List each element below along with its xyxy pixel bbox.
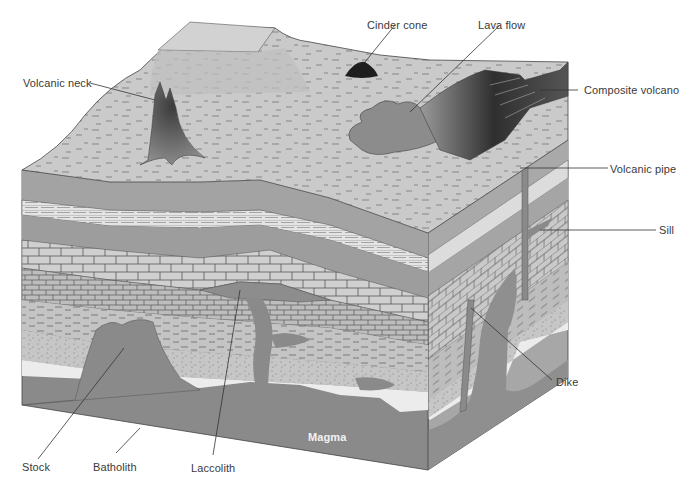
label-stock: Stock bbox=[22, 461, 50, 474]
label-sill: Sill bbox=[659, 224, 674, 237]
label-dike: Dike bbox=[556, 376, 578, 389]
label-laccolith: Laccolith bbox=[191, 462, 235, 475]
label-magma: Magma bbox=[308, 431, 346, 444]
label-composite-volcano: Composite volcano bbox=[584, 84, 679, 97]
front-face bbox=[22, 170, 428, 470]
label-batholith: Batholith bbox=[93, 461, 137, 474]
label-lava-flow: Lava flow bbox=[478, 19, 525, 32]
label-volcanic-neck: Volcanic neck bbox=[23, 77, 92, 90]
block-diagram: Volcanic neck Cinder cone Lava flow Comp… bbox=[0, 0, 694, 487]
label-cinder-cone: Cinder cone bbox=[367, 19, 427, 32]
label-volcanic-pipe: Volcanic pipe bbox=[610, 163, 676, 176]
diagram-canvas bbox=[0, 0, 694, 487]
